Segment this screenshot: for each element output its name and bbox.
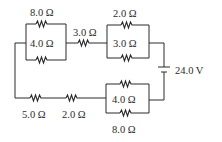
label-8ohm-top: 8.0 Ω xyxy=(30,7,54,18)
resistor-5ohm-bottom xyxy=(30,95,42,101)
resistor-2ohm-top-right xyxy=(121,22,133,28)
resistor-4ohm-top-left xyxy=(36,57,48,63)
resistor-8ohm-bottom-right xyxy=(120,110,132,116)
resistor-4ohm-bottom-right xyxy=(120,81,132,87)
label-3ohm-top: 3.0 Ω xyxy=(113,38,137,49)
resistor-8ohm-top-left xyxy=(36,21,48,27)
label-2ohm-bottom: 2.0 Ω xyxy=(62,109,86,120)
resistor-3ohm-series xyxy=(78,40,91,46)
label-2ohm-top: 2.0 Ω xyxy=(113,8,137,19)
wire-left xyxy=(15,43,30,98)
label-8ohm-bottom: 8.0 Ω xyxy=(112,124,136,135)
label-3ohm-series: 3.0 Ω xyxy=(73,27,97,38)
label-4ohm-top: 4.0 Ω xyxy=(30,38,54,49)
label-battery-voltage: 24.0 V xyxy=(175,65,204,76)
resistor-3ohm-top-right xyxy=(121,55,133,61)
label-4ohm-bottom: 4.0 Ω xyxy=(112,94,136,105)
resistor-2ohm-bottom xyxy=(66,95,78,101)
circuit-diagram: 8.0 Ω 4.0 Ω 3.0 Ω 2.0 Ω 3.0 Ω 24.0 V 4.0… xyxy=(0,0,222,142)
label-5ohm-bottom: 5.0 Ω xyxy=(22,109,46,120)
